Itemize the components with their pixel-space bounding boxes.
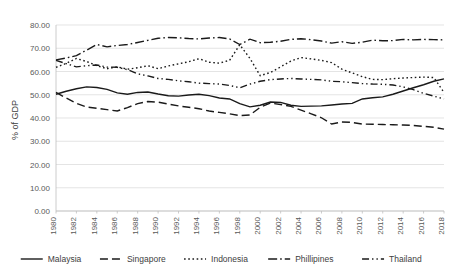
gdp-line-chart: 0.0010.0020.0030.0040.0050.0060.0070.008…: [0, 0, 449, 273]
x-tick-label: 2012: [376, 216, 385, 234]
legend-label-indonesia: Indonesia: [211, 254, 248, 264]
x-tick-label: 2004: [294, 216, 303, 234]
y-tick-label: 50.00: [30, 91, 51, 100]
x-tick-label: 1992: [172, 216, 181, 234]
y-axis-title: % of GDP: [10, 100, 20, 140]
x-tick-label: 2016: [417, 216, 426, 234]
x-tick-label: 1982: [69, 216, 78, 234]
x-tick-label: 2002: [274, 216, 283, 234]
x-tick-label: 2014: [396, 216, 405, 234]
series-line-indonesia: [56, 45, 444, 93]
x-tick-label: 1984: [90, 216, 99, 234]
y-tick-label: 80.00: [30, 21, 51, 30]
y-tick-label: 60.00: [30, 68, 51, 77]
x-tick-label: 2008: [335, 216, 344, 234]
legend-label-singapore: Singapore: [127, 254, 166, 264]
series-line-phillipines: [56, 38, 444, 60]
y-tick-label: 20.00: [30, 161, 51, 170]
x-tick-label: 1988: [131, 216, 140, 234]
x-tick-label: 1990: [151, 216, 160, 234]
x-axis-tick-labels: 1980198219841986198819901992199419961998…: [49, 211, 446, 235]
chart-legend: MalaysiaSingaporeIndonesiaPhillipinesTha…: [21, 254, 422, 264]
plot-grid: [56, 25, 444, 211]
y-tick-label: 30.00: [30, 137, 51, 146]
y-tick-label: 0.00: [34, 207, 50, 216]
x-tick-label: 1994: [192, 216, 201, 234]
y-tick-label: 40.00: [30, 114, 51, 123]
chart-canvas: 0.0010.0020.0030.0040.0050.0060.0070.008…: [0, 0, 449, 273]
y-tick-label: 70.00: [30, 44, 51, 53]
x-tick-label: 1998: [233, 216, 242, 234]
series-line-malaysia: [56, 79, 444, 107]
y-axis-tick-labels: 0.0010.0020.0030.0040.0050.0060.0070.008…: [30, 21, 51, 216]
x-tick-label: 2018: [437, 216, 446, 234]
x-tick-label: 2010: [355, 216, 364, 234]
x-tick-label: 1980: [49, 216, 58, 234]
x-tick-label: 1996: [212, 216, 221, 234]
y-tick-label: 10.00: [30, 184, 51, 193]
legend-label-thailand: Thailand: [389, 254, 422, 264]
x-tick-label: 1986: [110, 216, 119, 234]
legend-label-malaysia: Malaysia: [48, 254, 82, 264]
x-tick-label: 2006: [314, 216, 323, 234]
data-series-group: [56, 38, 444, 130]
x-tick-label: 2000: [253, 216, 262, 234]
legend-label-phillipines: Phillipines: [295, 254, 333, 264]
series-line-singapore: [56, 92, 444, 129]
